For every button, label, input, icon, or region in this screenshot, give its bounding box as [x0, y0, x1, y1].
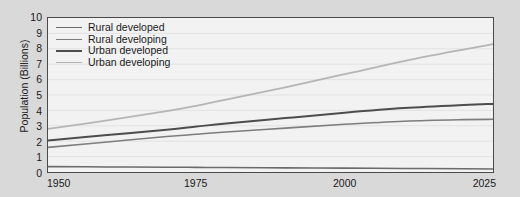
legend-line-swatch: [56, 27, 82, 28]
y-axis-tick-labels: 012345678910: [18, 0, 42, 197]
x-tick-label: 2000: [333, 178, 356, 189]
legend-item[interactable]: Rural developed: [56, 22, 170, 34]
y-tick-label: 9: [18, 28, 42, 39]
legend-item[interactable]: Urban developed: [56, 45, 170, 57]
legend-line-swatch: [56, 62, 82, 63]
legend-line-swatch: [56, 39, 82, 40]
y-tick-label: 4: [18, 106, 42, 117]
legend-item-label: Urban developing: [88, 57, 170, 69]
legend-item-label: Rural developed: [88, 22, 164, 34]
y-tick-label: 5: [18, 90, 42, 101]
x-tick-label: 1975: [184, 178, 207, 189]
x-tick-label: 2025: [473, 178, 496, 189]
y-tick-label: 2: [18, 137, 42, 148]
population-line-chart: Population (Billions) 012345678910 Rural…: [0, 0, 520, 197]
x-tick-label: 1950: [47, 178, 70, 189]
series-line: [48, 167, 493, 169]
y-tick-label: 8: [18, 43, 42, 54]
legend-line-swatch: [56, 50, 82, 52]
y-tick-label: 10: [18, 12, 42, 23]
y-tick-label: 7: [18, 59, 42, 70]
y-tick-label: 3: [18, 121, 42, 132]
y-tick-label: 0: [18, 168, 42, 179]
x-axis-tick-labels: 1950197520002025: [0, 178, 520, 192]
series-line: [48, 119, 493, 147]
series-line: [48, 104, 493, 140]
legend-item-label: Urban developed: [88, 45, 168, 57]
y-tick-label: 1: [18, 152, 42, 163]
legend: Rural developedRural developingUrban dev…: [54, 20, 174, 70]
y-tick-label: 6: [18, 74, 42, 85]
legend-item[interactable]: Urban developing: [56, 57, 170, 69]
